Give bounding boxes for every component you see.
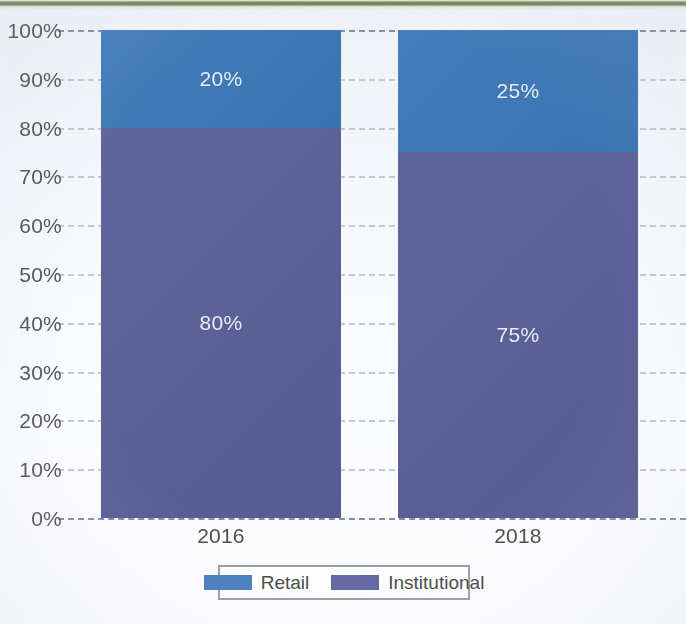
y-tick-label-60: 60% xyxy=(2,214,62,238)
legend-label-retail: Retail xyxy=(261,572,310,594)
x-tick-label-2018: 2018 xyxy=(398,524,638,548)
bar-2018-segment-institutional[interactable]: 75% xyxy=(398,152,638,518)
y-tick-label-90: 90% xyxy=(2,68,62,92)
chart-canvas: 100% 90% 80% 70% 60% 50% 40% 30% 20% 10% xyxy=(0,0,686,624)
bar-2016-segment-institutional[interactable]: 80% xyxy=(101,128,341,518)
y-tick-label-100: 100% xyxy=(2,19,62,43)
y-tick-label-80: 80% xyxy=(2,117,62,141)
legend-swatch-institutional-icon xyxy=(331,575,379,590)
bar-2018-segment-retail[interactable]: 25% xyxy=(398,30,638,152)
bar-2016[interactable]: 20% 80% xyxy=(101,30,341,518)
x-tick-label-2016: 2016 xyxy=(101,524,341,548)
bar-2016-institutional-value: 80% xyxy=(200,311,243,335)
legend-swatch-retail-icon xyxy=(204,575,252,590)
gridline-0: 0% xyxy=(58,518,686,520)
bar-2018[interactable]: 25% 75% xyxy=(398,30,638,518)
legend-label-institutional: Institutional xyxy=(388,572,484,594)
y-tick-label-40: 40% xyxy=(2,312,62,336)
bar-2018-institutional-value: 75% xyxy=(497,323,540,347)
bar-2018-retail-value: 25% xyxy=(497,79,540,103)
y-tick-label-0: 0% xyxy=(2,507,62,531)
chart-legend: Retail Institutional xyxy=(218,565,470,600)
bar-2016-retail-value: 20% xyxy=(200,67,243,91)
y-tick-label-20: 20% xyxy=(2,409,62,433)
legend-item-institutional[interactable]: Institutional xyxy=(331,572,484,594)
y-tick-label-50: 50% xyxy=(2,263,62,287)
bar-2016-segment-retail[interactable]: 20% xyxy=(101,30,341,128)
y-tick-label-70: 70% xyxy=(2,165,62,189)
plot-area: 100% 90% 80% 70% 60% 50% 40% 30% 20% 10% xyxy=(0,0,686,624)
y-tick-label-30: 30% xyxy=(2,361,62,385)
y-tick-label-10: 10% xyxy=(2,458,62,482)
legend-item-retail[interactable]: Retail xyxy=(204,572,310,594)
